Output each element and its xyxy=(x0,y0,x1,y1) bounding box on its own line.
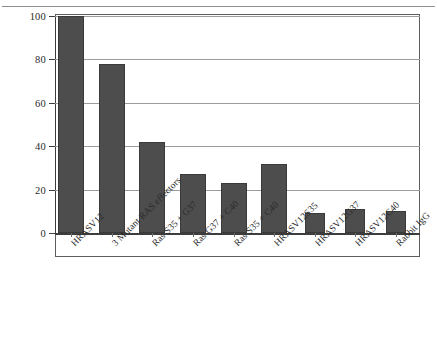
gridline xyxy=(55,16,420,17)
x-tick-mark xyxy=(112,233,113,237)
y-tick-label: 40 xyxy=(35,141,46,152)
y-tick-label: 100 xyxy=(30,11,46,22)
x-tick-mark xyxy=(396,233,397,237)
gridline xyxy=(55,59,420,60)
top-divider-rule xyxy=(2,6,435,7)
bar xyxy=(261,164,287,233)
y-tick-label: 60 xyxy=(35,97,46,108)
y-tick-mark xyxy=(49,233,55,234)
x-tick-mark xyxy=(355,233,356,237)
y-tick-label: 0 xyxy=(41,228,46,239)
x-tick-mark xyxy=(274,233,275,237)
bar xyxy=(58,16,84,233)
x-tick-mark xyxy=(193,233,194,237)
y-tick-mark xyxy=(49,16,55,17)
bar xyxy=(99,64,125,233)
y-tick-mark xyxy=(49,59,55,60)
y-tick-mark xyxy=(49,146,55,147)
y-tick-mark xyxy=(49,103,55,104)
plot-area: BrdU labelling index (%) 020406080100 xyxy=(55,16,420,233)
x-tick-mark xyxy=(152,233,153,237)
x-tick-mark xyxy=(71,233,72,237)
x-tick-mark xyxy=(234,233,235,237)
y-tick-mark xyxy=(49,190,55,191)
x-tick-mark xyxy=(315,233,316,237)
y-tick-label: 20 xyxy=(35,184,46,195)
y-tick-label: 80 xyxy=(35,54,46,65)
chart-figure: BrdU labelling index (%) 020406080100 HR… xyxy=(0,0,437,345)
